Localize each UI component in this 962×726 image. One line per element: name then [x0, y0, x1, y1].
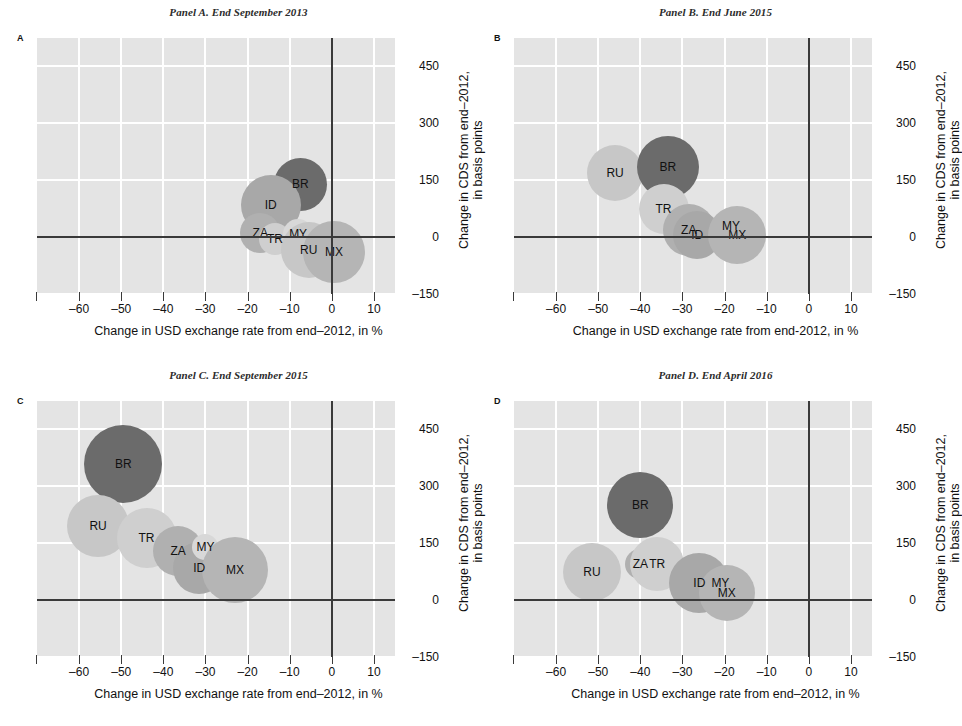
bubble-label-br: BR: [115, 457, 132, 471]
x-tick-label: 0: [805, 665, 812, 679]
x-tick-mark: [682, 655, 683, 664]
x-tick-mark: [640, 292, 641, 301]
gridline-horizontal: [37, 656, 395, 657]
axis-zero-horizontal: [514, 599, 872, 601]
x-tick-label: –20: [238, 302, 258, 316]
x-axis-start-tick: [513, 655, 514, 664]
x-tick-mark: [767, 292, 768, 301]
x-tick-mark: [851, 655, 852, 664]
x-tick-label: –10: [757, 665, 777, 679]
x-tick-label: 10: [367, 302, 380, 316]
panel-letter: A: [17, 33, 24, 43]
axis-zero-vertical: [331, 401, 333, 657]
x-axis-title: Change in USD exchange rate from end–201…: [477, 687, 954, 701]
panel-c: Panel C. End September 2015CBRRUTRZAIDMY…: [0, 363, 477, 726]
panel-title: Panel D. End April 2016: [477, 369, 954, 381]
bubble-label-ru: RU: [300, 243, 317, 257]
y-tick-label: 300: [399, 116, 439, 130]
gridline-horizontal: [514, 65, 872, 67]
y-tick-label: 450: [876, 59, 916, 73]
bubble-label-br: BR: [292, 177, 309, 191]
y-tick-label: 0: [876, 593, 916, 607]
bubble-label-ru: RU: [606, 166, 623, 180]
x-tick-mark: [248, 292, 249, 301]
y-tick-label: 450: [399, 59, 439, 73]
x-tick-label: –30: [195, 302, 215, 316]
y-tick-label: 300: [876, 479, 916, 493]
panel-title: Panel A. End September 2013: [0, 6, 477, 18]
x-tick-label: –20: [715, 665, 735, 679]
gridline-horizontal: [37, 65, 395, 67]
x-tick-mark: [556, 292, 557, 301]
y-tick-label: 450: [876, 422, 916, 436]
y-tick-label: 300: [876, 116, 916, 130]
x-tick-label: 0: [328, 665, 335, 679]
gridline-vertical: [373, 38, 375, 294]
x-tick-label: –20: [238, 665, 258, 679]
gridline-vertical: [850, 38, 852, 294]
y-tick-label: –150: [399, 650, 439, 664]
y-axis-title-line1: Change in CDS from end–2012,: [934, 71, 948, 249]
x-tick-label: –60: [69, 302, 89, 316]
x-tick-mark: [598, 292, 599, 301]
x-tick-label: 10: [367, 665, 380, 679]
gridline-horizontal: [37, 179, 395, 181]
y-tick-label: 0: [399, 593, 439, 607]
bubble-label-id: ID: [693, 576, 705, 590]
x-tick-mark: [163, 292, 164, 301]
x-tick-mark: [205, 292, 206, 301]
x-tick-label: –10: [280, 302, 300, 316]
gridline-horizontal: [514, 122, 872, 124]
x-tick-label: –10: [757, 302, 777, 316]
bubble-label-mx: MX: [226, 563, 244, 577]
bubble-label-id: ID: [265, 198, 277, 212]
gridline-horizontal: [37, 428, 395, 430]
bubble-label-my: MY: [196, 540, 214, 554]
y-tick-label: –150: [876, 650, 916, 664]
gridline-horizontal: [514, 293, 872, 294]
x-tick-mark: [556, 655, 557, 664]
gridline-vertical: [681, 401, 683, 657]
panel-title: Panel B. End June 2015: [477, 6, 954, 18]
axis-zero-vertical: [808, 401, 810, 657]
gridline-vertical: [78, 38, 80, 294]
y-tick-label: 450: [399, 422, 439, 436]
gridline-vertical: [850, 401, 852, 657]
gridline-horizontal: [514, 428, 872, 430]
plot-area: BRRUTRZAIDMYMX: [37, 401, 395, 657]
x-tick-label: 0: [805, 302, 812, 316]
bubble-label-za: ZA: [170, 544, 185, 558]
x-tick-label: 10: [844, 665, 857, 679]
x-tick-label: –40: [153, 665, 173, 679]
plot-area: BRIDZATRMYRUMX: [37, 38, 395, 294]
x-tick-label: –50: [111, 665, 131, 679]
x-tick-label: –60: [69, 665, 89, 679]
gridline-vertical: [555, 38, 557, 294]
axis-zero-horizontal: [514, 236, 872, 238]
x-tick-mark: [851, 292, 852, 301]
bubble-label-br: BR: [659, 160, 676, 174]
x-tick-label: –30: [195, 665, 215, 679]
gridline-horizontal: [514, 485, 872, 487]
gridline-vertical: [289, 401, 291, 657]
gridline-vertical: [120, 38, 122, 294]
bubble-label-za: ZA: [633, 557, 648, 571]
x-axis-title: Change in USD exchange rate from end-201…: [477, 324, 954, 338]
x-tick-mark: [79, 292, 80, 301]
axis-zero-vertical: [808, 38, 810, 294]
panel-letter: D: [494, 396, 501, 406]
x-tick-mark: [163, 655, 164, 664]
y-axis-title-line1: Change in CDS from end–2012,: [457, 71, 471, 249]
bubble-label-br: BR: [632, 498, 649, 512]
gridline-vertical: [247, 38, 249, 294]
panel-letter: B: [494, 33, 501, 43]
y-tick-label: 150: [876, 173, 916, 187]
gridline-horizontal: [37, 293, 395, 294]
y-tick-label: 150: [399, 173, 439, 187]
x-tick-label: –40: [153, 302, 173, 316]
x-tick-label: –50: [111, 302, 131, 316]
bubble-label-mx: MX: [325, 245, 343, 259]
x-tick-mark: [121, 655, 122, 664]
x-tick-label: 10: [844, 302, 857, 316]
y-axis-title-line1: Change in CDS from end–2012,: [457, 434, 471, 612]
